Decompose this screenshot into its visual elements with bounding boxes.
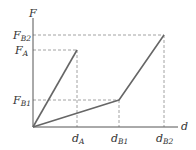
x-axis-label: d <box>181 120 188 133</box>
y-tick-fb1: FB1 <box>12 94 31 108</box>
curves <box>33 35 164 127</box>
x-tick-db2: dB2 <box>156 132 174 146</box>
y-axis-label: F <box>28 7 37 20</box>
curve-b <box>33 35 164 127</box>
dashed-guides <box>33 35 164 127</box>
x-tick-db1: dB1 <box>111 132 128 146</box>
force-displacement-diagram: F d FB2 FA FB1 dA dB1 dB2 <box>0 0 196 150</box>
x-tick-da: dA <box>72 132 85 146</box>
axes <box>33 18 178 127</box>
y-tick-fa: FA <box>14 44 29 58</box>
y-tick-fb2: FB2 <box>12 29 31 43</box>
